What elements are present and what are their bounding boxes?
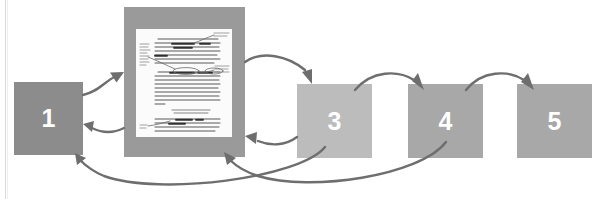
stage-document-2[interactable] [124,7,245,157]
stage-box-5[interactable]: 5 [517,84,592,158]
stage-box-1-label: 1 [42,106,56,131]
stage-box-5-label: 5 [548,109,562,134]
arrow-document-to-stage3 [245,56,312,84]
arrow-stage1-to-document [83,72,124,95]
stage-box-3-label: 3 [328,109,342,134]
scan-artifact-line-secondary [7,0,8,199]
stage-box-4[interactable]: 4 [408,84,483,158]
stage-box-3[interactable]: 3 [297,84,372,158]
stage-box-1[interactable]: 1 [14,82,83,155]
arrow-stage3-to-document [245,132,297,144]
diagram-canvas: 1 [0,0,598,199]
scan-artifact-line [5,0,6,199]
stage-box-4-label: 4 [439,109,453,134]
document-page [136,29,232,137]
arrow-document-to-stage1 [83,121,124,132]
document-page-content [136,29,232,137]
